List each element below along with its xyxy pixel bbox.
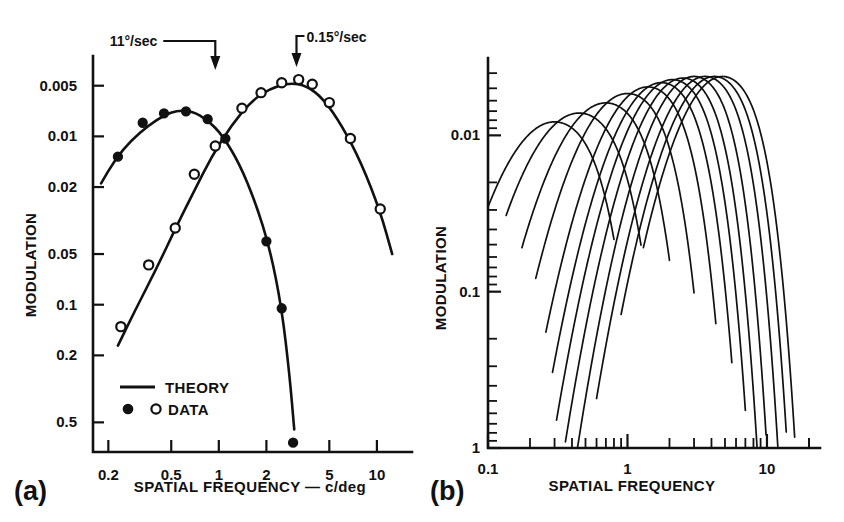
- panel-b-axis-lines: [488, 58, 820, 448]
- data-point-filled: [221, 134, 230, 143]
- panel-b-curve-3: [522, 103, 670, 260]
- panel-a-theory-curve-slow: [118, 84, 392, 346]
- panel-a-y-tick-label: 0.005: [39, 77, 77, 94]
- panel-b-y-tick-label: 1: [472, 439, 480, 456]
- data-point-filled: [114, 152, 123, 161]
- data-point-open: [237, 104, 246, 113]
- annotation-label-fast: 11°/sec: [110, 33, 158, 49]
- panel-b-curve-4: [536, 94, 694, 293]
- panel-a-x-tick-label: 0.2: [98, 466, 119, 483]
- data-point-filled: [289, 438, 298, 447]
- legend-filled-circle-swatch: [123, 404, 132, 413]
- panel-b-x-tick-label: 1: [623, 460, 631, 477]
- panel-b-curve-7: [557, 80, 746, 420]
- data-point-open: [346, 134, 355, 143]
- panel-b-x-tick-labels: 0.1110: [478, 460, 776, 477]
- panel-b-svg: 0.1110 0.010.11 SPATIAL FREQUENCY MODULA…: [422, 0, 844, 522]
- panel-b-curve-8: [565, 78, 757, 447]
- panel-b-x-axis-title: SPATIAL FREQUENCY: [549, 477, 716, 494]
- data-point-open: [211, 141, 220, 150]
- panel-b-x-tick-label: 10: [759, 460, 776, 477]
- panel-a-y-tick-label: 0.2: [56, 346, 77, 363]
- data-point-open: [256, 88, 265, 97]
- panel-b-y-tick-label: 0.1: [459, 283, 480, 300]
- data-point-filled: [138, 118, 147, 127]
- panel-a-chart: 11°/sec0.15°/sec 0.20.512510 0.0050.010.…: [0, 0, 422, 522]
- panel-a-y-tick-label: 0.5: [56, 413, 77, 430]
- panel-a-y-tick-label: 0.01: [48, 127, 77, 144]
- data-point-open: [325, 98, 334, 107]
- data-point-open: [308, 80, 317, 89]
- panel-a-y-tick-label: 0.02: [48, 178, 77, 195]
- panel-a-y-tick-label: 0.05: [48, 245, 77, 262]
- panel-b-y-tick-labels: 0.010.11: [451, 126, 480, 456]
- panel-a-annotations: 11°/sec0.15°/sec: [110, 29, 367, 70]
- legend-open-circle-swatch: [151, 404, 160, 413]
- panel-b-x-tick-label: 0.1: [478, 460, 499, 477]
- figure-container: 11°/sec0.15°/sec 0.20.512510 0.0050.010.…: [0, 0, 844, 522]
- data-point-filled: [262, 237, 271, 246]
- panel-b-curve-9: [578, 76, 767, 447]
- panel-a-axes: [93, 56, 412, 452]
- data-point-filled: [182, 107, 191, 116]
- panel-a-x-tick-label: 10: [369, 466, 386, 483]
- data-point-filled: [277, 304, 286, 313]
- panel-a-svg: 11°/sec0.15°/sec 0.20.512510 0.0050.010.…: [0, 0, 422, 522]
- legend-theory-label: THEORY: [165, 379, 229, 396]
- data-point-open: [277, 78, 286, 87]
- panel-b-y-axis-title: MODULATION: [432, 226, 449, 331]
- panel-b-curve-family: [488, 76, 795, 447]
- panel-a-y-tick-label: 0.1: [56, 296, 77, 313]
- annotation-elbow-fast: [163, 41, 215, 58]
- data-point-filled: [160, 109, 169, 118]
- panel-a-letter: (a): [14, 476, 47, 506]
- panel-b-curve-10: [597, 76, 778, 446]
- annotation-arrowhead-slow: [291, 53, 301, 67]
- panel-b-chart: 0.1110 0.010.11 SPATIAL FREQUENCY MODULA…: [422, 0, 844, 522]
- data-point-open: [294, 75, 303, 84]
- panel-b-y-tick-label: 0.01: [451, 126, 480, 143]
- data-point-open: [116, 322, 125, 331]
- panel-a-y-axis-title: MODULATION: [22, 213, 39, 318]
- legend-data-label: DATA: [168, 401, 209, 418]
- panel-b-axes: [488, 58, 820, 448]
- data-point-open: [171, 223, 180, 232]
- data-point-filled: [203, 115, 212, 124]
- panel-a-x-axis-title: SPATIAL FREQUENCY — c/deg: [134, 478, 366, 495]
- data-point-open: [190, 170, 199, 179]
- panel-a-legend: THEORY DATA: [120, 379, 229, 418]
- annotation-label-slow: 0.15°/sec: [306, 29, 366, 45]
- annotation-arrowhead-fast: [210, 56, 220, 70]
- data-point-open: [144, 260, 153, 269]
- panel-a-axis-lines: [93, 56, 412, 452]
- panel-b-letter: (b): [430, 476, 464, 506]
- annotation-elbow-slow: [296, 36, 304, 55]
- data-point-open: [376, 204, 385, 213]
- panel-a-y-tick-labels: 0.0050.010.020.050.10.20.5: [39, 77, 77, 431]
